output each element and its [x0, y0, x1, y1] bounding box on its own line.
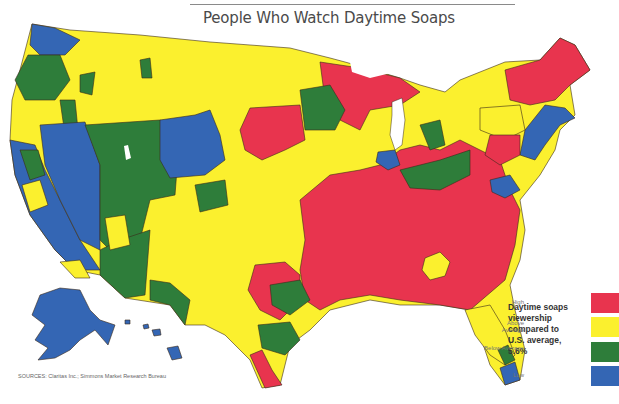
legend-label: Below Average	[484, 345, 524, 352]
legend-swatch-high	[591, 293, 619, 313]
legend-swatch-above-average	[591, 317, 619, 337]
region-new-england-high	[505, 38, 590, 105]
region-hawaii-small-2	[143, 324, 149, 329]
region-montana-green	[140, 58, 152, 78]
legend-label: High	[484, 299, 524, 306]
region-idaho-green	[80, 72, 95, 95]
region-hawaii-low	[167, 346, 182, 360]
legend-swatch-below-average	[591, 342, 619, 362]
legend-label: Above Average	[484, 320, 524, 334]
region-hawaii-small-3	[125, 320, 130, 324]
legend-swatch-low	[591, 366, 619, 386]
sources-note: SOURCES: Claritas Inc.; Simmons Market R…	[18, 373, 166, 379]
region-hawaii-small-1	[152, 329, 161, 336]
region-alaska-low	[32, 288, 115, 360]
legend-label: Low	[484, 372, 524, 379]
